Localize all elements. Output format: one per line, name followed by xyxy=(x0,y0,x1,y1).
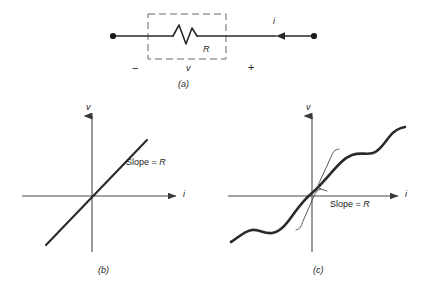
figure-root: R i − v + (a) v i Slope = R (b) v i Slop… xyxy=(0,0,429,287)
panel-b-slope-text: Slope = xyxy=(126,157,159,167)
caption-c: (c) xyxy=(313,266,324,275)
panel-c-v-axis-label: v xyxy=(306,103,311,112)
panel-b-v-axis-label: v xyxy=(86,103,91,112)
terminal-plus-sign: + xyxy=(248,62,254,73)
caption-a: (a) xyxy=(178,80,189,89)
current-label-i: i xyxy=(273,17,275,26)
right-terminal-node xyxy=(311,33,317,39)
panel-b-characteristic-line xyxy=(46,140,147,245)
panel-b-i-axis-label: i xyxy=(183,190,185,199)
terminal-minus-sign: − xyxy=(132,63,138,74)
left-terminal-node xyxy=(110,33,116,39)
panel-c-slope-annotation: Slope = R xyxy=(330,200,370,209)
panel-c-characteristic-curve xyxy=(231,127,405,242)
panel-c-axes-and-curve xyxy=(228,116,405,252)
panel-b-slope-symbol: R xyxy=(159,157,166,167)
panel-a-circuit xyxy=(110,14,317,59)
panel-c-slope-brace-pointer xyxy=(321,189,327,191)
resistor-zigzag-symbol xyxy=(173,25,197,44)
caption-b: (b) xyxy=(98,266,109,275)
figure-vector-layer xyxy=(0,0,429,287)
voltage-label-v: v xyxy=(186,64,191,73)
panel-c-slope-text: Slope = xyxy=(330,199,363,209)
current-direction-arrowhead xyxy=(276,32,285,40)
panel-b-axes-and-curve xyxy=(22,116,176,252)
panel-b-slope-annotation: Slope = R xyxy=(126,158,166,167)
panel-c-i-axis-label: i xyxy=(405,190,407,199)
panel-c-slope-symbol: R xyxy=(363,199,370,209)
resistor-label-R: R xyxy=(203,45,210,54)
